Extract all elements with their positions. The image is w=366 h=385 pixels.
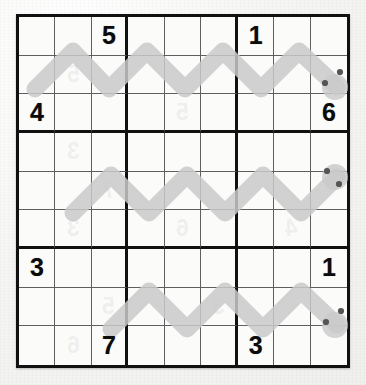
cell-r7c6[interactable] [201, 249, 237, 288]
cell-r4c4[interactable] [128, 133, 164, 172]
cell-r5c7[interactable] [238, 172, 274, 211]
cell-r2c6[interactable] [201, 56, 237, 95]
sudoku-grid-container: 515456373643153673 [16, 14, 350, 368]
cell-r6c2[interactable]: 3 [55, 210, 91, 249]
cell-r5c3[interactable]: 7 [92, 172, 128, 211]
cell-r9c8[interactable] [274, 326, 310, 365]
cell-r6c8[interactable]: 4 [274, 210, 310, 249]
cell-r6c1[interactable] [19, 210, 55, 249]
cell-r1c8[interactable] [274, 17, 310, 56]
ghost-digit: 5 [102, 293, 115, 320]
cell-r9c2[interactable]: 6 [55, 326, 91, 365]
given-digit-r3c9: 6 [322, 100, 335, 125]
cell-r8c4[interactable] [128, 288, 164, 327]
cell-r8c1[interactable] [19, 288, 55, 327]
cell-r9c6[interactable] [201, 326, 237, 365]
cell-r4c5[interactable] [165, 133, 201, 172]
cell-r6c9[interactable] [311, 210, 347, 249]
cell-r3c1[interactable]: 4 [19, 94, 55, 133]
ghost-digit: 6 [176, 215, 189, 242]
cell-r4c1[interactable] [19, 133, 55, 172]
cell-r4c8[interactable] [274, 133, 310, 172]
cell-r6c3[interactable] [92, 210, 128, 249]
cell-r6c5[interactable]: 6 [165, 210, 201, 249]
cell-r3c2[interactable] [55, 94, 91, 133]
cell-r5c1[interactable] [19, 172, 55, 211]
cell-r3c6[interactable] [201, 94, 237, 133]
cell-r9c1[interactable] [19, 326, 55, 365]
cell-r1c6[interactable] [201, 17, 237, 56]
cell-r6c4[interactable] [128, 210, 164, 249]
cell-r7c5[interactable] [165, 249, 201, 288]
cell-r4c7[interactable] [238, 133, 274, 172]
cell-r7c3[interactable] [92, 249, 128, 288]
given-digit-r1c7: 1 [249, 23, 262, 48]
cell-r5c9[interactable] [311, 172, 347, 211]
cell-r2c9[interactable] [311, 56, 347, 95]
cell-r7c8[interactable] [274, 249, 310, 288]
cell-r2c5[interactable] [165, 56, 201, 95]
cell-r9c4[interactable] [128, 326, 164, 365]
cell-r9c3[interactable]: 7 [92, 326, 128, 365]
cell-r1c9[interactable] [311, 17, 347, 56]
cell-r8c3[interactable]: 5 [92, 288, 128, 327]
cell-r1c2[interactable] [55, 17, 91, 56]
cell-r4c9[interactable] [311, 133, 347, 172]
cell-r2c1[interactable] [19, 56, 55, 95]
cell-r7c1[interactable]: 3 [19, 249, 55, 288]
given-digit-r3c1: 4 [30, 100, 43, 125]
cell-r6c7[interactable] [238, 210, 274, 249]
ghost-digit: 7 [102, 177, 115, 204]
cell-r1c3[interactable]: 5 [92, 17, 128, 56]
cell-r8c5[interactable] [165, 288, 201, 327]
cell-r8c7[interactable] [238, 288, 274, 327]
cell-r5c4[interactable] [128, 172, 164, 211]
given-digit-r9c3: 7 [102, 333, 115, 358]
cell-r2c3[interactable] [92, 56, 128, 95]
given-digit-r9c7: 3 [249, 333, 262, 358]
cell-r8c2[interactable] [55, 288, 91, 327]
cell-r4c3[interactable] [92, 133, 128, 172]
cell-r5c2[interactable] [55, 172, 91, 211]
cell-r5c6[interactable] [201, 172, 237, 211]
cell-r6c6[interactable] [201, 210, 237, 249]
cell-r1c7[interactable]: 1 [238, 17, 274, 56]
cell-r9c5[interactable] [165, 326, 201, 365]
cell-r5c5[interactable] [165, 172, 201, 211]
cell-r8c8[interactable] [274, 288, 310, 327]
cell-r4c6[interactable] [201, 133, 237, 172]
cell-r7c7[interactable] [238, 249, 274, 288]
cell-r4c2[interactable]: 3 [55, 133, 91, 172]
cell-r9c9[interactable] [311, 326, 347, 365]
cell-r3c5[interactable]: 5 [165, 94, 201, 133]
cell-r3c9[interactable]: 6 [311, 94, 347, 133]
sudoku-cells[interactable]: 515456373643153673 [19, 17, 347, 365]
cell-r2c4[interactable] [128, 56, 164, 95]
cell-r1c4[interactable] [128, 17, 164, 56]
given-digit-r7c9: 1 [322, 255, 335, 280]
given-digit-r7c1: 3 [30, 255, 43, 280]
cell-r3c3[interactable] [92, 94, 128, 133]
cell-r3c7[interactable] [238, 94, 274, 133]
cell-r2c8[interactable] [274, 56, 310, 95]
ghost-digit: 3 [67, 215, 80, 242]
cell-r3c4[interactable] [128, 94, 164, 133]
ghost-digit: 5 [67, 61, 80, 88]
ghost-digit: 3 [67, 138, 80, 165]
cell-r2c7[interactable] [238, 56, 274, 95]
cell-r5c8[interactable] [274, 172, 310, 211]
sudoku-grid[interactable]: 515456373643153673 [16, 14, 350, 368]
cell-r1c5[interactable] [165, 17, 201, 56]
cell-r3c8[interactable] [274, 94, 310, 133]
cell-r2c2[interactable]: 5 [55, 56, 91, 95]
ghost-digit: 4 [285, 215, 298, 242]
cell-r8c9[interactable] [311, 288, 347, 327]
cell-r7c2[interactable] [55, 249, 91, 288]
cell-r1c1[interactable] [19, 17, 55, 56]
cell-r9c7[interactable]: 3 [238, 326, 274, 365]
cell-r7c4[interactable] [128, 249, 164, 288]
cell-r7c9[interactable]: 1 [311, 249, 347, 288]
cell-r8c6[interactable]: 3 [201, 288, 237, 327]
ghost-digit: 6 [67, 332, 80, 359]
given-digit-r1c3: 5 [102, 23, 115, 48]
